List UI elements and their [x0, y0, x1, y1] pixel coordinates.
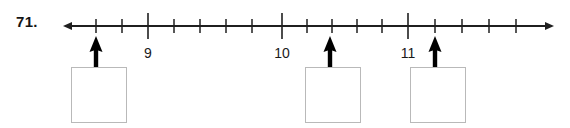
answer-box-c[interactable] — [410, 67, 466, 123]
answer-box-b[interactable] — [305, 67, 361, 123]
tick-labels-group: 9 10 11 — [144, 45, 415, 61]
markers-group — [90, 36, 442, 72]
tick-label-9: 9 — [144, 45, 152, 61]
number-line-problem: 71. — [0, 0, 570, 128]
tick-label-11: 11 — [401, 45, 416, 61]
tick-label-10: 10 — [274, 45, 290, 61]
answer-box-a[interactable] — [71, 67, 127, 123]
